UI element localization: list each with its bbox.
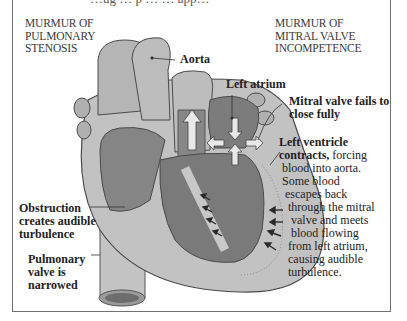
label-left-ventricle-forcing: forcing [329, 148, 367, 162]
caption-pulmonary-stenosis: MURMUR OF PULMONARY STENOSIS [25, 17, 95, 55]
label-mitral-valve-fails: Mitral valve fails to close fully [289, 95, 389, 121]
label-pulmonary-valve-narrowed: Pulmonary valve is narrowed [28, 253, 85, 292]
caption-mitral-valve-incompetence: MURMUR OF MITRAL VALVE INCOMPETENCE [275, 17, 361, 55]
label-obstruction-turbulence: Obstruction creates audible turbulence [19, 202, 96, 241]
label-left-ventricle-contracts: Left ventricle contracts, forcing [279, 136, 367, 162]
label-left-atrium: Left atrium [226, 78, 286, 91]
label-left-ventricle-description: blood into aorta. Some blood escapes bac… [279, 162, 375, 279]
label-aorta: Aorta [180, 53, 210, 66]
clipped-heading-text: …ug … p … … app… [90, 0, 210, 7]
